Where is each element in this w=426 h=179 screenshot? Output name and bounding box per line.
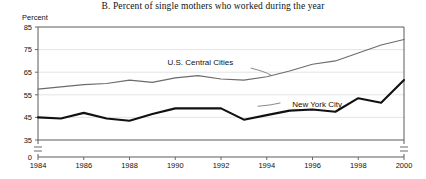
x-tick-label: 1990 (167, 161, 184, 170)
series-line (38, 80, 404, 121)
y-tick-label: 35 (24, 136, 32, 145)
x-tick-label: 1984 (30, 161, 47, 170)
series-annotation: New York City (292, 100, 342, 109)
y-tick-label: 75 (24, 45, 32, 54)
axes-group (34, 27, 408, 157)
y-tick-label: 85 (24, 23, 32, 32)
series-lines-group (38, 39, 404, 120)
annotation-leader-central-cities (251, 68, 272, 75)
chart-plot: 3545556575850198419861988199019921994199… (0, 0, 426, 179)
x-tick-label: 1994 (258, 161, 275, 170)
x-tick-label: 1998 (350, 161, 367, 170)
chart-figure: B. Percent of single mothers who worked … (0, 0, 426, 179)
x-tick-label: 1992 (213, 161, 230, 170)
x-tick-label: 2000 (396, 161, 413, 170)
plot-frame (38, 27, 404, 140)
x-tick-label: 1986 (75, 161, 92, 170)
y-tick-label: 65 (24, 68, 32, 77)
tick-labels-group: 3545556575850198419861988199019921994199… (24, 23, 413, 170)
x-tick-label: 1988 (121, 161, 138, 170)
y-tick-label: 55 (24, 91, 32, 100)
series-annotation: U.S. Central Cities (168, 58, 234, 67)
x-tick-label: 1996 (304, 161, 321, 170)
y-tick-label: 45 (24, 113, 32, 122)
annotation-leader-new-york-city (258, 103, 281, 106)
series-annotations-group: U.S. Central CitiesNew York City (168, 58, 342, 109)
